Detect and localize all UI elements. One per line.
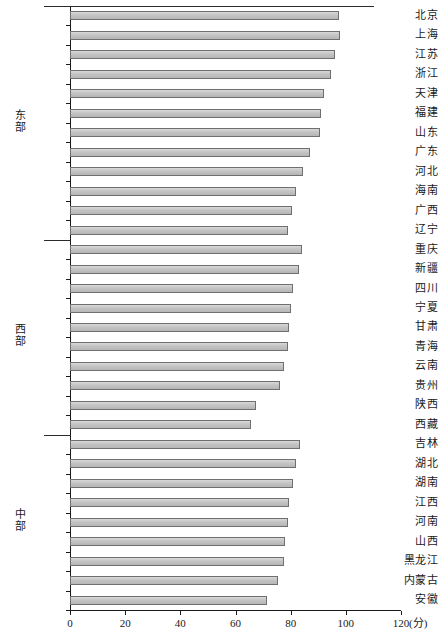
bar xyxy=(70,537,285,546)
bar xyxy=(70,401,256,410)
bar xyxy=(70,596,267,605)
category-label: 甘肃 xyxy=(373,320,441,332)
y-axis-tick xyxy=(66,220,70,221)
category-label: 江苏 xyxy=(373,48,441,60)
y-axis-tick xyxy=(66,279,70,280)
category-label: 山西 xyxy=(373,535,441,547)
y-axis-tick xyxy=(66,396,70,397)
category-label: 重庆 xyxy=(373,243,441,255)
x-axis-unit-label: (分) xyxy=(409,617,427,629)
y-axis-tick xyxy=(66,474,70,475)
bar xyxy=(70,479,293,488)
y-axis-tick xyxy=(66,571,70,572)
category-label: 西藏 xyxy=(373,418,441,430)
x-axis-tick-label: 20 xyxy=(105,617,145,629)
bar xyxy=(70,265,299,274)
bar xyxy=(70,11,339,20)
bar xyxy=(70,187,296,196)
category-label: 云南 xyxy=(373,359,441,371)
category-label: 北京 xyxy=(373,9,441,21)
bar xyxy=(70,518,288,527)
top-rule xyxy=(44,6,374,7)
bar xyxy=(70,50,335,59)
bar xyxy=(70,440,300,449)
category-label: 宁夏 xyxy=(373,301,441,313)
category-label: 安徽 xyxy=(373,593,441,605)
bar xyxy=(70,362,284,371)
category-label: 湖南 xyxy=(373,476,441,488)
bar xyxy=(70,459,296,468)
bar xyxy=(70,167,303,176)
category-label: 海南 xyxy=(373,184,441,196)
bar-chart: 北京上海江苏浙江天津福建山东广东河北海南广西辽宁重庆新疆四川宁夏甘肃青海云南贵州… xyxy=(0,0,441,644)
region-divider xyxy=(44,240,71,241)
y-axis-tick xyxy=(66,201,70,202)
category-label: 江西 xyxy=(373,496,441,508)
y-axis-tick xyxy=(66,45,70,46)
bar xyxy=(70,420,251,429)
y-axis-tick xyxy=(66,493,70,494)
bar xyxy=(70,70,331,79)
bar xyxy=(70,206,292,215)
x-axis-tick xyxy=(180,611,181,615)
y-axis-tick xyxy=(66,298,70,299)
category-label: 黑龙江 xyxy=(373,554,441,566)
category-label: 天津 xyxy=(373,87,441,99)
y-axis-tick xyxy=(66,103,70,104)
region-label-0: 东部 xyxy=(10,109,26,133)
category-label: 吉林 xyxy=(373,437,441,449)
category-label: 浙江 xyxy=(373,67,441,79)
y-axis-tick xyxy=(66,415,70,416)
y-axis-tick xyxy=(66,357,70,358)
y-axis-tick xyxy=(66,513,70,514)
category-label: 广东 xyxy=(373,145,441,157)
x-axis-tick-label: 60 xyxy=(216,617,256,629)
y-axis-tick xyxy=(66,552,70,553)
y-axis-tick xyxy=(66,532,70,533)
region-label-1: 西部 xyxy=(10,323,26,347)
y-axis-tick xyxy=(66,25,70,26)
x-axis-tick xyxy=(70,611,71,615)
category-label: 山东 xyxy=(373,126,441,138)
bar xyxy=(70,89,324,98)
x-axis-tick xyxy=(236,611,237,615)
bar xyxy=(70,284,293,293)
category-label: 河南 xyxy=(373,515,441,527)
category-label: 河北 xyxy=(373,165,441,177)
bar xyxy=(70,109,321,118)
x-axis-tick-label: 40 xyxy=(160,617,200,629)
x-axis-tick-label: 0 xyxy=(50,617,90,629)
category-label: 辽宁 xyxy=(373,223,441,235)
y-axis-tick xyxy=(66,84,70,85)
bar xyxy=(70,148,310,157)
bar xyxy=(70,498,289,507)
y-axis-tick xyxy=(66,123,70,124)
category-label: 内蒙古 xyxy=(373,574,441,586)
category-label: 上海 xyxy=(373,28,441,40)
x-axis-tick-label: 100 xyxy=(326,617,366,629)
bar xyxy=(70,557,284,566)
category-label: 陕西 xyxy=(373,398,441,410)
bar xyxy=(70,576,278,585)
category-label: 新疆 xyxy=(373,262,441,274)
category-label: 湖北 xyxy=(373,457,441,469)
x-axis-tick xyxy=(125,611,126,615)
category-label: 四川 xyxy=(373,282,441,294)
category-label: 青海 xyxy=(373,340,441,352)
y-axis-tick xyxy=(66,181,70,182)
category-label: 福建 xyxy=(373,106,441,118)
y-axis-tick xyxy=(66,591,70,592)
y-axis-tick xyxy=(66,162,70,163)
category-label: 广西 xyxy=(373,204,441,216)
x-axis-tick xyxy=(401,611,402,615)
x-axis-tick xyxy=(291,611,292,615)
bar xyxy=(70,128,320,137)
y-axis-tick xyxy=(66,337,70,338)
category-label: 贵州 xyxy=(373,379,441,391)
region-label-2: 中部 xyxy=(10,508,26,532)
y-axis-tick xyxy=(66,64,70,65)
bar xyxy=(70,226,288,235)
bar xyxy=(70,304,291,313)
x-axis-tick xyxy=(346,611,347,615)
y-axis-tick xyxy=(66,318,70,319)
